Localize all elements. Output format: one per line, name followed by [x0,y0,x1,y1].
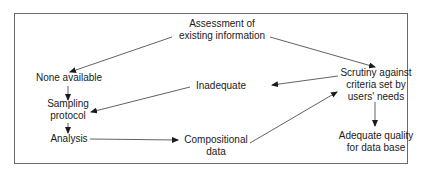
edge-analysis-to-compositional [90,139,178,140]
node-sampling-protocol: Sampling protocol [38,98,98,122]
node-none-available: None available [24,72,114,84]
node-inadequate: Inadequate [190,80,252,92]
edge-scrutiny-to-inadequate [272,76,338,85]
edge-inadequate-to-sampling [91,87,190,112]
edge-assessment-to-none [70,37,172,72]
node-scrutiny: Scrutiny against criteria set by users' … [336,67,416,103]
node-analysis: Analysis [44,133,94,145]
node-adequate-quality: Adequate quality for data base [334,130,418,154]
edge-compositional-to-scrutiny [250,92,337,143]
node-assessment: Assessment of existing information [170,18,274,42]
node-compositional-data: Compositional data [178,134,254,158]
edge-assessment-to-scrutiny [270,37,375,67]
